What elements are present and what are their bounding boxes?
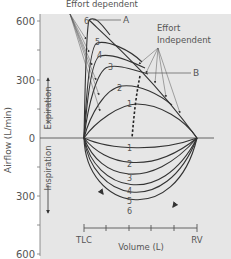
svg-text:4: 4: [127, 187, 132, 196]
svg-text:1: 1: [127, 144, 132, 153]
y-tick-0: 0: [29, 133, 35, 144]
y-tick-600-bottom: 600: [16, 249, 35, 259]
effort-independent-label-line1: Effort: [157, 23, 181, 33]
point-b-label: B: [193, 68, 199, 78]
rv-label: RV: [191, 235, 202, 245]
y-axis-label: Airflow (L/min): [3, 107, 13, 173]
svg-text:3: 3: [127, 174, 132, 183]
y-tick-300-top: 300: [16, 75, 35, 86]
point-a-label: A: [123, 15, 130, 25]
svg-text:4: 4: [97, 51, 102, 60]
svg-text:2: 2: [127, 160, 132, 169]
y-tick-600-top: 600: [16, 16, 35, 27]
svg-text:6: 6: [84, 17, 89, 26]
svg-text:5: 5: [95, 38, 100, 47]
plot-background: [40, 14, 231, 259]
y-ticks: [37, 21, 40, 254]
svg-text:1: 1: [127, 100, 132, 109]
x-axis-label: Volume (L): [118, 242, 164, 252]
effort-dependent-label: Effort dependent: [66, 0, 139, 9]
y-tick-300-bottom: 300: [16, 191, 35, 202]
expiration-label: Expiration: [43, 86, 53, 129]
tlc-label: TLC: [75, 235, 92, 245]
flow-volume-chart: 600 300 0 300 600 Airflow (L/min) Expira…: [0, 0, 231, 259]
svg-text:5: 5: [127, 197, 132, 206]
svg-text:6: 6: [127, 207, 132, 216]
effort-independent-label-line2: Independent: [157, 35, 212, 45]
svg-text:3: 3: [108, 63, 113, 72]
inspiration-label: Inspiration: [43, 145, 53, 190]
svg-text:2: 2: [117, 84, 122, 93]
